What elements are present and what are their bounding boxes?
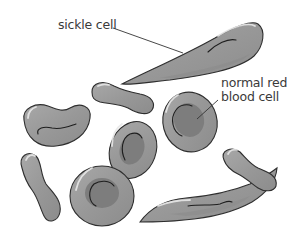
kidney-cell-left [24,105,90,146]
dumbbell-cell-top-middle [92,83,154,114]
normal-red-blood-cell-right [156,86,224,158]
sickle-cell-label: sickle cell [58,18,117,31]
normal-rbc-label-line2: blood cell [221,90,279,103]
sickle-cell-diagram: sickle cell normal red blood cell [0,0,296,244]
cells-illustration [0,0,296,244]
normal-rbc-label-line1: normal red [221,76,287,89]
normal-red-blood-cell-bottom [70,166,134,226]
dumbbell-cell-left-vertical [21,154,60,221]
sickle-cell-leader-line [113,28,183,53]
